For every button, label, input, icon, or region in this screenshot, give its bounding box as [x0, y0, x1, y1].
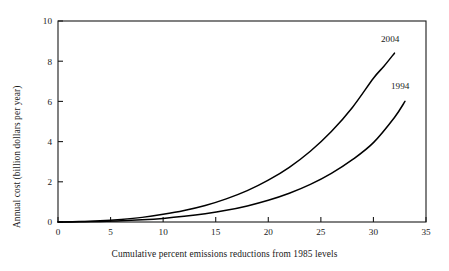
curve-2004 [58, 53, 394, 222]
y-tick-label: 8 [47, 57, 52, 67]
x-tick-label: 20 [264, 227, 274, 237]
x-tick-label: 5 [108, 227, 113, 237]
y-tick-label: 4 [47, 137, 52, 147]
series-label-1994: 1994 [391, 81, 410, 91]
x-tick-label: 0 [56, 227, 61, 237]
series-labels: 20041994 [381, 34, 410, 91]
x-tick-label: 15 [211, 227, 221, 237]
x-tick-label: 10 [159, 227, 169, 237]
curve-1994 [58, 101, 405, 222]
y-tick-label: 10 [43, 16, 53, 26]
axis-ticks [58, 21, 426, 222]
chart-plot-area: 051015202530350246810 20041994 [0, 0, 449, 271]
y-axis-title: Annual cost (billion dollars per year) [12, 85, 22, 228]
x-tick-label: 35 [421, 227, 431, 237]
y-tick-label: 6 [47, 97, 52, 107]
axis-frame [58, 21, 426, 222]
y-tick-label: 0 [47, 217, 52, 227]
y-tick-label: 2 [47, 177, 52, 187]
x-tick-label: 25 [316, 227, 326, 237]
chart-figure: 051015202530350246810 20041994 Cumulativ… [0, 0, 449, 271]
x-axis-title: Cumulative percent emissions reductions … [0, 249, 449, 259]
data-curves [58, 53, 405, 222]
series-label-2004: 2004 [381, 34, 400, 44]
axis-tick-labels: 051015202530350246810 [43, 16, 431, 237]
x-tick-label: 30 [369, 227, 379, 237]
